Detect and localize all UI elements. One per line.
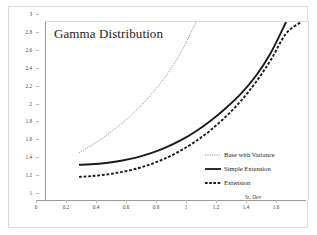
x-tick-mark: [66, 200, 67, 203]
x-tick-label: 1.4: [234, 204, 258, 211]
x-tick-mark: [96, 200, 97, 203]
x-tick-label: 1: [174, 204, 198, 211]
x-tick-mark: [126, 200, 127, 203]
x-tick-label: 0.8: [144, 204, 168, 211]
x-tick-label: 0.6: [114, 204, 138, 211]
x-tick-mark: [276, 200, 277, 203]
x-tick-label: 1.2: [204, 204, 228, 211]
x-tick-label: 0.2: [54, 204, 78, 211]
chart-figure: Gamma Distribution St. Dev Base with Var…: [0, 0, 317, 235]
x-tick-label: 1.6: [264, 204, 288, 211]
x-tick-mark: [246, 200, 247, 203]
x-tick-mark: [186, 200, 187, 203]
x-tick-label: 0: [24, 204, 48, 211]
x-tick-label: 0.4: [84, 204, 108, 211]
x-tick-mark: [156, 200, 157, 203]
x-axis-ticks: 00.20.40.60.811.21.41.6: [0, 0, 317, 235]
x-tick-mark: [216, 200, 217, 203]
x-tick-mark: [36, 200, 37, 203]
